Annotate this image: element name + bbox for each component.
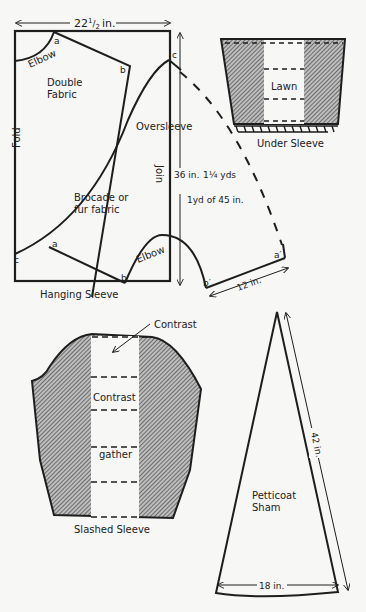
double-fabric-label-line1: Double: [47, 77, 82, 88]
width-label: 221/2in.: [74, 17, 116, 31]
petticoat-label-line1: Petticoat: [252, 490, 296, 501]
point-b-prime: b′: [203, 278, 211, 288]
yardage-label-2: 1yd of 45 in.: [187, 195, 244, 205]
hanging-sleeve-caption: Hanging Sleeve: [40, 289, 118, 300]
oversleeve-curve: [15, 60, 169, 254]
double-fabric-label-line2: Fabric: [47, 89, 77, 100]
under-sleeve-pattern: Lawn Under Sleeve: [221, 39, 345, 149]
slashed-sleeve-caption: Slashed Sleeve: [74, 524, 150, 535]
gather-label: gather: [99, 449, 133, 460]
lawn-label: Lawn: [271, 81, 297, 92]
double-fabric-piece-edge: [54, 32, 130, 297]
contrast-pointer-label: Contrast: [154, 319, 197, 330]
contrast-center-label: Contrast: [93, 392, 136, 403]
fold-label: Fold: [11, 127, 22, 148]
side-length-label: 12 in.: [235, 275, 262, 293]
brocade-label-line1: Brocade or: [74, 192, 129, 203]
point-a-prime: a′: [274, 250, 282, 260]
point-b-top: b: [120, 65, 126, 75]
slashed-sleeve-pattern: Contrast Contrast gather Slashed Sleeve: [32, 319, 201, 535]
elbow-label-bottom: Elbow: [135, 244, 167, 265]
point-c-top: c: [172, 50, 177, 60]
brocade-piece-edge: [49, 247, 125, 283]
under-sleeve-caption: Under Sleeve: [257, 138, 324, 149]
point-b-bottom: b: [121, 273, 127, 283]
petticoat-sham-pattern: 42 in. 18 in. Petticoat Sham: [216, 312, 348, 596]
oversleeve-label: Oversleeve: [136, 121, 192, 132]
brocade-label-line2: fur fabric: [74, 204, 120, 215]
frill-edge: [234, 126, 338, 132]
point-a-bottom: a: [52, 239, 58, 249]
petticoat-label-line2: Sham: [252, 502, 281, 513]
length-label: 36 in.: [174, 170, 199, 180]
petticoat-base-label: 18 in.: [259, 581, 284, 591]
point-a-top: a: [54, 36, 60, 46]
contrast-panel: [91, 336, 139, 518]
pattern-diagram: 221/2in. a b c a b c b′ a′ Elbow Elbow: [0, 0, 366, 612]
point-c-bottom: c: [14, 255, 19, 265]
join-label: Join: [154, 164, 165, 183]
yardage-label-1: 1¼ yds: [203, 170, 236, 180]
